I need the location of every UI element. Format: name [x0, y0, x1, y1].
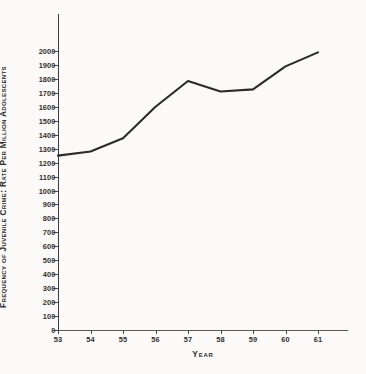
y-axis-tick-label: 400: [43, 270, 56, 279]
y-axis-tick-label: 600: [43, 242, 56, 251]
y-axis-tick-label: 1700: [39, 88, 56, 97]
y-axis-tick-label: 200: [43, 298, 56, 307]
y-axis-tick-label: 100: [43, 312, 56, 321]
y-axis-tick-label: 1600: [39, 102, 56, 111]
x-axis-tick-label: 58: [216, 335, 224, 344]
y-axis-tick-label: 1100: [39, 172, 55, 181]
x-axis-tick-label: 59: [249, 335, 257, 344]
x-axis-tick-label: 54: [86, 335, 94, 344]
y-axis-tick-label: 1800: [39, 74, 56, 83]
y-axis-tick-label: 1500: [39, 116, 56, 125]
chart-figure: Frequency of Juvenile Crime: Rate Per Mi…: [0, 0, 366, 374]
y-axis-tick-label: 900: [43, 200, 56, 209]
y-axis-tick-label: 2000: [39, 47, 56, 56]
x-axis-tick-label: 55: [119, 335, 127, 344]
plot-area: 0100200300400500600700800900100011001200…: [58, 14, 348, 331]
y-axis-tick-label: 800: [43, 214, 56, 223]
series-polyline: [58, 52, 318, 155]
x-axis-title: Year: [58, 349, 348, 359]
y-axis-tick-label: 300: [43, 284, 56, 293]
y-axis-tick-label: 1300: [39, 144, 56, 153]
y-axis-tick-label: 1200: [39, 158, 56, 167]
x-axis-tick-label: 61: [314, 335, 322, 344]
y-axis-title-text: Frequency of Juvenile Crime: Rate Per Mi…: [0, 66, 20, 308]
y-axis-tick-label: 700: [43, 228, 56, 237]
x-axis-tick-label: 56: [151, 335, 159, 344]
y-axis-tick-label: 1900: [39, 60, 56, 69]
y-axis-tick-label: 500: [43, 256, 56, 265]
x-axis-tick-label: 60: [281, 335, 289, 344]
x-axis-tick-label: 57: [184, 335, 192, 344]
y-axis-tick-label: 1400: [39, 130, 56, 139]
x-axis-tick-label: 53: [54, 335, 62, 344]
y-axis-tick-label: 0: [51, 326, 55, 335]
y-axis-tick-label: 1000: [39, 186, 56, 195]
y-axis-title: Frequency of Juvenile Crime: Rate Per Mi…: [0, 0, 18, 374]
data-series-line: [58, 14, 348, 331]
